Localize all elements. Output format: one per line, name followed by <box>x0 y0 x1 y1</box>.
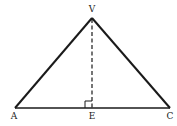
label-c: C <box>167 111 174 121</box>
label-e: E <box>89 111 96 121</box>
side-va <box>15 18 92 108</box>
side-vc <box>92 18 170 108</box>
label-a: A <box>10 111 18 121</box>
label-v: V <box>88 4 96 14</box>
right-angle-marker <box>85 101 92 108</box>
triangle-diagram: V A E C <box>0 0 177 126</box>
